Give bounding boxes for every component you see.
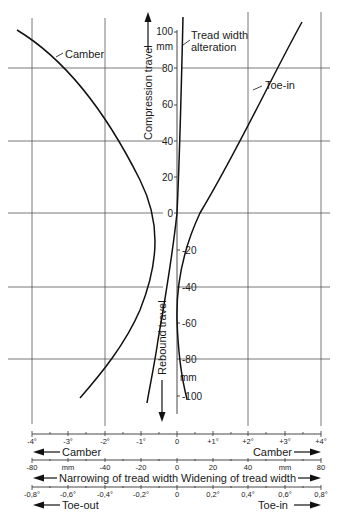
camber-left-label: Camber (62, 446, 101, 458)
right-arrow-icon (310, 449, 321, 456)
svg-text:+4°: +4° (315, 437, 327, 446)
svg-text:20: 20 (209, 463, 217, 472)
right-arrow-icon (310, 502, 321, 509)
tread-width-label-line2: alteration (191, 41, 236, 53)
svg-text:0,6°: 0,6° (278, 490, 291, 499)
svg-text:0: 0 (167, 208, 173, 219)
svg-text:80: 80 (162, 63, 174, 74)
svg-text:40: 40 (162, 136, 174, 147)
kinematics-chart: 100 mm 80 60 40 20 0 -20 -40 -60 -80 mm … (0, 0, 341, 516)
svg-text:-80: -80 (27, 463, 38, 472)
svg-text:0,4°: 0,4° (241, 490, 254, 499)
svg-text:-4°: -4° (27, 437, 37, 446)
svg-text:-0,2°: -0,2° (133, 490, 149, 499)
svg-text:0,8°: 0,8° (314, 490, 327, 499)
svg-text:0,2°: 0,2° (206, 490, 219, 499)
svg-text:0: 0 (175, 437, 179, 446)
left-arrow-icon (33, 475, 44, 482)
svg-text:-80: -80 (182, 354, 197, 365)
right-arrow-icon (310, 475, 321, 482)
svg-text:-0,6°: -0,6° (60, 490, 76, 499)
y-tick-100: 100 (156, 26, 173, 37)
camber-curve-label: Camber (65, 48, 104, 60)
svg-text:-20: -20 (136, 463, 147, 472)
svg-text:80: 80 (317, 463, 325, 472)
svg-text:-60: -60 (182, 318, 197, 329)
svg-text:0: 0 (175, 463, 179, 472)
svg-text:0: 0 (175, 490, 179, 499)
svg-text:-2°: -2° (100, 437, 110, 446)
down-arrow-icon (159, 412, 166, 422)
camber-curve (17, 30, 155, 398)
svg-text:-1°: -1° (136, 437, 146, 446)
svg-text:-40: -40 (182, 282, 197, 293)
toe-axis: -0,8°-0,6°-0,4° -0,2°00,2° 0,4°0,6°0,8° … (24, 485, 328, 511)
svg-text:mm: mm (279, 463, 292, 472)
svg-text:-40: -40 (100, 463, 111, 472)
toe-left-label: Toe-out (62, 499, 99, 511)
svg-text:60: 60 (162, 99, 174, 110)
tread-width-axis: -80mm-40 -20020 40mm80 Narrowing of trea… (27, 458, 326, 484)
tread-right-label: Widening of tread width (181, 472, 296, 484)
svg-text:-3°: -3° (63, 437, 73, 446)
svg-text:-0,8°: -0,8° (24, 490, 40, 499)
camber-right-label: Camber (253, 446, 292, 458)
left-arrow-icon (33, 449, 44, 456)
y-unit-top: mm (156, 41, 173, 52)
up-arrow-icon (145, 12, 152, 22)
compression-label: Compression travel (142, 45, 154, 140)
y-axis: 100 mm 80 60 40 20 0 -20 -40 -60 -80 mm … (142, 12, 202, 422)
svg-text:mm: mm (62, 463, 75, 472)
left-arrow-icon (33, 502, 44, 509)
svg-text:+2°: +2° (242, 437, 254, 446)
svg-text:40: 40 (244, 463, 252, 472)
svg-text:20: 20 (162, 172, 174, 183)
svg-text:-0,4°: -0,4° (97, 490, 113, 499)
toe-in-curve-label: Toe-in (265, 79, 295, 91)
camber-axis: -4°-3°-2° -1°0+1° +2°+3°+4° Camber Cambe… (27, 431, 327, 458)
tread-left-label: Narrowing of tread width (59, 472, 178, 484)
tread-width-label-line1: Tread width (191, 29, 248, 41)
svg-text:+1°: +1° (207, 437, 219, 446)
svg-text:+3°: +3° (279, 437, 291, 446)
toe-right-label: Toe-in (258, 499, 288, 511)
